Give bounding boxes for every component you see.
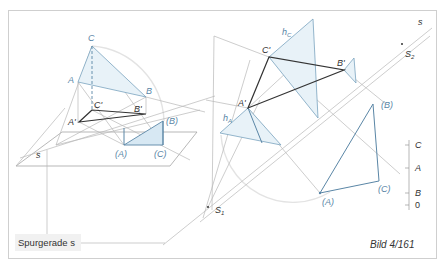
- label-A-rot-top: (A): [322, 197, 334, 207]
- label-B: B: [146, 86, 152, 96]
- figure-caption: Bild 4/161: [370, 239, 414, 250]
- label-C-rot-top: (C): [378, 184, 391, 194]
- label-A-rot: (A): [115, 149, 127, 159]
- scale-label-C: C: [415, 140, 422, 150]
- scale-label-B: B: [415, 188, 421, 198]
- label-s-left: s: [36, 150, 41, 160]
- label-s-right: s: [418, 17, 423, 27]
- label-B-prime-top: B': [337, 58, 345, 68]
- label-B-rot-top: (B): [381, 100, 393, 110]
- label-C: C: [88, 33, 95, 43]
- label-B-rot: (B): [166, 116, 178, 126]
- label-A: A: [67, 75, 74, 85]
- figure-canvas: C A B C' B' A' (B) (A) (C) s: [0, 0, 443, 267]
- scale-label-0: 0: [415, 200, 420, 210]
- legend-label: Spurgerade s: [18, 237, 75, 248]
- label-C-rot: (C): [154, 149, 167, 159]
- label-C-prime-top: C': [262, 45, 270, 55]
- label-A-prime: A': [67, 117, 76, 127]
- point-S1: [207, 206, 209, 208]
- label-B-prime: B': [134, 104, 142, 114]
- label-A-prime-top: A': [237, 98, 246, 108]
- label-C-prime: C': [94, 100, 102, 110]
- point-A-rot: [319, 192, 321, 194]
- point-S2: [401, 43, 403, 45]
- figure-frame: [9, 11, 437, 259]
- scale-label-A: A: [414, 163, 421, 173]
